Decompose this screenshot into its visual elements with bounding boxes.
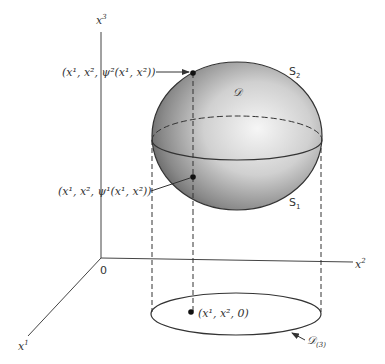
S1-label: S1 <box>289 196 300 211</box>
base-point-dot <box>188 309 194 315</box>
bottom-point-dot <box>190 174 196 180</box>
sphere-body <box>152 62 322 210</box>
top-point-dot <box>190 70 196 76</box>
origin-label: 0 <box>100 264 107 277</box>
region-D-solid <box>152 62 322 210</box>
x1-axis-label: x1 <box>18 339 29 353</box>
x2-axis <box>101 258 353 262</box>
S2-label: S2 <box>289 65 300 80</box>
projection-D3-label: 𝒟(3) <box>307 334 326 349</box>
x3-axis-label: x3 <box>96 13 107 27</box>
x2-axis-label: x2 <box>355 257 366 271</box>
x1-axis <box>28 258 101 336</box>
bottom-point-label: (x¹, x², ψ¹(x¹, x²)) <box>58 185 152 198</box>
projection-label-arrow <box>292 333 305 340</box>
region-projection-diagram: x3 x2 x1 0 (x¹, x², ψ²(x¹, x²)) (x¹, x²,… <box>0 0 385 364</box>
base-point-label: (x¹, x², 0) <box>198 307 249 320</box>
top-point-label: (x¹, x², ψ²(x¹, x²)) <box>62 66 156 79</box>
